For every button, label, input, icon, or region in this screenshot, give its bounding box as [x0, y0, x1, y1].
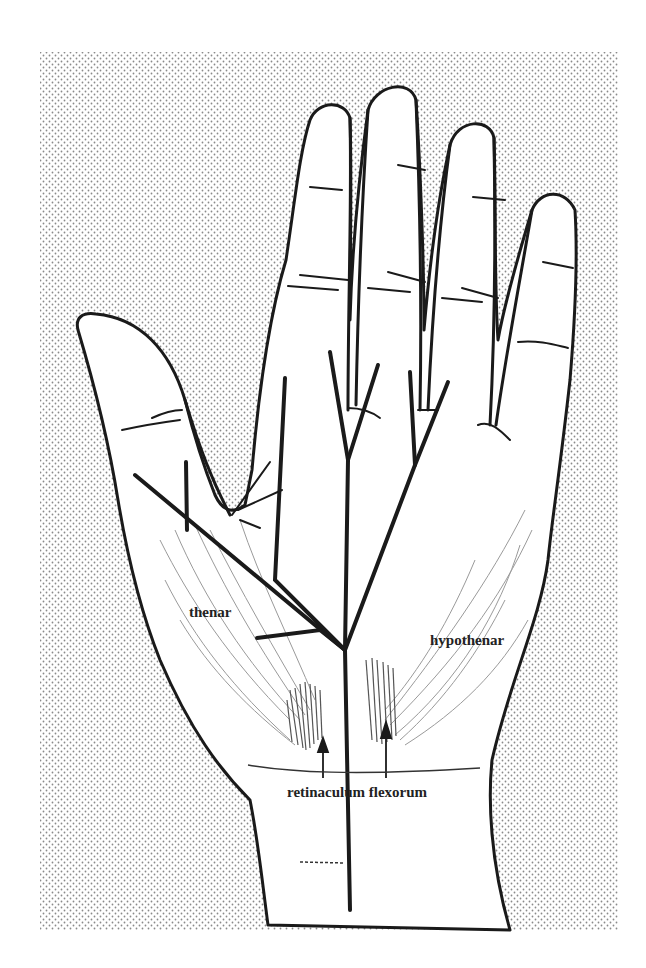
label-hypothenar: hypothenar: [430, 632, 505, 648]
hand-anatomy-diagram: thenar hypothenar retinaculum flexorum: [0, 0, 646, 968]
label-retinaculum-flexorum: retinaculum flexorum: [287, 784, 428, 800]
label-thenar: thenar: [189, 604, 232, 620]
